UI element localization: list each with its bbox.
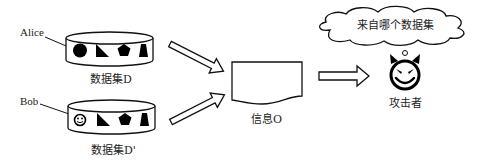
dataset-d-prime-label: 数据集D'	[91, 145, 136, 157]
bob-pointer-line	[40, 104, 72, 115]
thought-bubble-dot	[403, 51, 408, 56]
bob-smiley-icon	[75, 115, 86, 126]
dataset-d-cylinder	[66, 32, 153, 66]
arrow-from-d-prime-icon	[167, 88, 228, 129]
attacker-thought-text: 来自哪个数据集	[357, 20, 434, 32]
devil-face-icon	[390, 54, 420, 89]
document-o-shape	[232, 62, 302, 104]
alice-circle-icon	[73, 44, 87, 58]
output-o-label: 信息O	[251, 114, 282, 126]
arrow-from-d-icon	[166, 37, 227, 78]
dataset-d-prime-cylinder	[68, 100, 155, 134]
attacker-label: 攻击者	[389, 98, 422, 110]
alice-label: Alice	[20, 26, 44, 38]
arrow-to-attacker-icon	[319, 66, 369, 86]
bob-label: Bob	[20, 95, 38, 107]
dataset-d-label: 数据集D	[90, 74, 132, 86]
